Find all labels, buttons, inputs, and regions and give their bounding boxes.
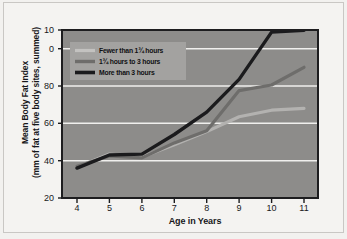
x-tick-label-6: 6 (133, 203, 151, 213)
x-tick-label-7: 7 (165, 203, 183, 213)
y-tick-label-20: 20 (28, 193, 54, 203)
x-tick-label-10: 10 (263, 203, 281, 213)
x-tick-label-4: 4 (68, 203, 86, 213)
chart-figure: 10 0 80 60 40 20 4 5 6 7 8 9 10 11 Mean … (0, 0, 347, 239)
x-tick-label-8: 8 (198, 203, 216, 213)
x-tick-label-5: 5 (100, 203, 118, 213)
legend-label-fewer-than-1-3-4-hours: Fewer than 1¾ hours (99, 47, 163, 54)
x-axis-title: Age in Years (60, 216, 330, 226)
y-axis-title-line2: (mm of fat at five body sites, summed) (30, 13, 41, 193)
legend-label-1-3-4-hours-to-3-hours: 1¾ hours to 3 hours (99, 58, 160, 65)
y-axis-title: Mean Body Fat Index (mm of fat at five b… (20, 13, 41, 193)
x-tick-label-9: 9 (230, 203, 248, 213)
y-axis-title-line1: Mean Body Fat Index (20, 13, 31, 193)
legend-label-more-than-3-hours: More than 3 hours (99, 69, 155, 76)
x-tick-label-11: 11 (295, 203, 313, 213)
